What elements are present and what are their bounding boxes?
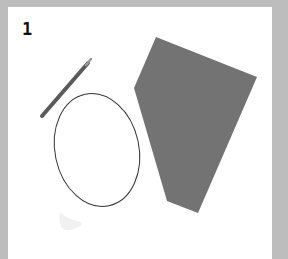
ellipse-outline — [44, 86, 150, 215]
gray-quadrilateral — [134, 37, 257, 213]
drawing-canvas — [0, 0, 288, 259]
pencil-icon — [42, 59, 91, 116]
faint-smudge — [59, 212, 81, 230]
